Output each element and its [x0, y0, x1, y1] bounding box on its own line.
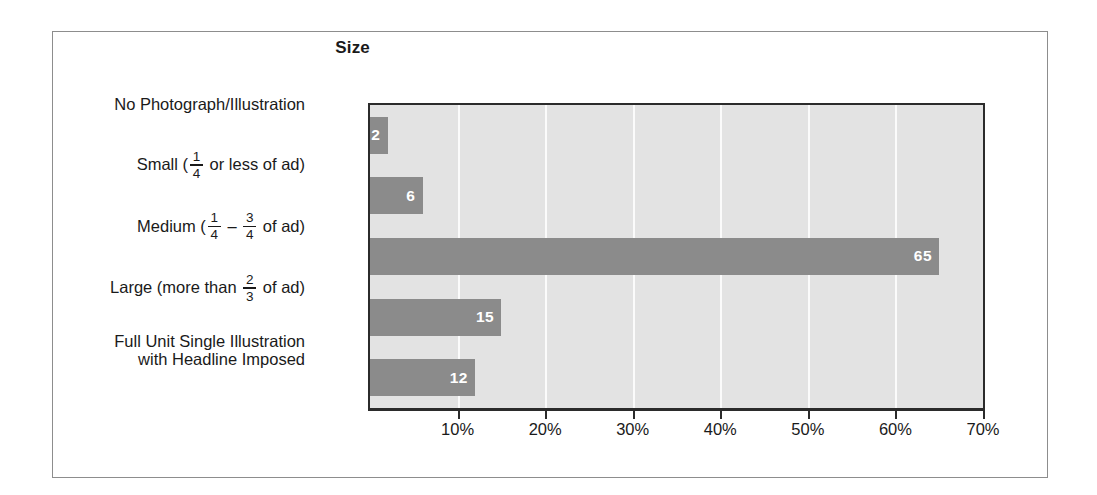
bar-row-large: 15 — [370, 287, 983, 348]
x-tick-label-50: 50% — [791, 420, 824, 439]
x-tick-label-20: 20% — [529, 420, 562, 439]
category-label-medium: Medium (14 – 34 of ad) — [40, 197, 312, 258]
bar-value-label-small: 6 — [406, 187, 422, 205]
x-tick-30 — [633, 411, 635, 419]
label-text-segment: No Photograph/Illustration — [114, 95, 305, 113]
label-text-segment: Medium ( — [137, 217, 206, 235]
label-line: No Photograph/Illustration — [114, 95, 305, 113]
category-label-text: Full Unit Single Illustrationwith Headli… — [114, 332, 305, 369]
x-tick-label-40: 40% — [704, 420, 737, 439]
label-line: Medium (14 – 34 of ad) — [137, 217, 305, 235]
bar-value-label-medium: 65 — [914, 247, 939, 265]
x-tick-60 — [895, 411, 897, 419]
x-tick-70 — [983, 411, 985, 419]
bar-row-full-unit: 12 — [370, 347, 983, 408]
plot-area: 26651512 — [368, 103, 985, 410]
fraction-denominator: 3 — [244, 289, 256, 304]
fraction-numerator: 3 — [244, 211, 256, 226]
x-tick-10 — [458, 411, 460, 419]
fraction-numerator: 1 — [209, 211, 221, 226]
category-label-text: Medium (14 – 34 of ad) — [137, 212, 305, 243]
fraction-numerator: 2 — [244, 273, 256, 288]
fraction-3-over-4: 34 — [243, 211, 256, 242]
bar-small[interactable]: 6 — [370, 177, 423, 214]
fraction-1-over-4: 14 — [190, 150, 203, 181]
category-label-small: Small (14 or less of ad) — [40, 135, 312, 196]
category-label-text: Large (more than 23 of ad) — [110, 274, 305, 305]
label-text-segment: – — [223, 217, 241, 235]
x-axis-ticks — [368, 411, 985, 419]
category-label-large: Large (more than 23 of ad) — [40, 258, 312, 319]
label-line: with Headline Imposed — [138, 350, 305, 368]
fraction-1-over-4: 14 — [208, 211, 221, 242]
label-text-segment: with Headline Imposed — [138, 350, 305, 368]
label-line: Small (14 or less of ad) — [137, 155, 305, 173]
label-text-segment: of ad) — [258, 278, 305, 296]
bar-row-no-photograph: 2 — [370, 105, 983, 166]
label-text-segment: or less of ad) — [205, 155, 305, 173]
x-tick-40 — [720, 411, 722, 419]
x-tick-20 — [545, 411, 547, 419]
bar-medium[interactable]: 65 — [370, 238, 939, 275]
fraction-denominator: 4 — [244, 227, 256, 242]
bar-row-small: 6 — [370, 166, 983, 227]
x-tick-label-70: 70% — [966, 420, 999, 439]
bar-value-label-full-unit: 12 — [450, 369, 475, 387]
bar-large[interactable]: 15 — [370, 299, 501, 336]
label-text-segment: Small ( — [137, 155, 188, 173]
bar-value-label-no-photograph: 2 — [371, 126, 387, 144]
fraction-denominator: 4 — [191, 166, 203, 181]
category-label-text: Small (14 or less of ad) — [137, 151, 305, 182]
fraction-2-over-3: 23 — [243, 273, 256, 304]
category-label-text: No Photograph/Illustration — [114, 95, 305, 113]
x-tick-label-10: 10% — [441, 420, 474, 439]
x-axis-tick-labels: 10%20%30%40%50%60%70% — [368, 420, 985, 446]
x-tick-label-30: 30% — [616, 420, 649, 439]
bar-no-photograph[interactable]: 2 — [370, 117, 388, 154]
fraction-numerator: 1 — [191, 150, 203, 165]
chart-title: Size — [230, 38, 370, 58]
bar-row-medium: 65 — [370, 226, 983, 287]
label-line: Full Unit Single Illustration — [114, 332, 305, 350]
bars-layer: 26651512 — [370, 105, 983, 408]
category-label-full-unit: Full Unit Single Illustrationwith Headli… — [40, 320, 312, 381]
category-axis: No Photograph/IllustrationSmall (14 or l… — [40, 74, 312, 381]
label-line: Large (more than 23 of ad) — [110, 278, 305, 296]
bar-value-label-large: 15 — [476, 308, 501, 326]
label-text-segment: Large (more than — [110, 278, 241, 296]
label-text-segment: of ad) — [258, 217, 305, 235]
category-label-no-photograph: No Photograph/Illustration — [40, 74, 312, 135]
fraction-denominator: 4 — [209, 227, 221, 242]
label-text-segment: Full Unit Single Illustration — [114, 332, 305, 350]
x-tick-label-60: 60% — [879, 420, 912, 439]
bar-full-unit[interactable]: 12 — [370, 359, 475, 396]
x-tick-50 — [808, 411, 810, 419]
